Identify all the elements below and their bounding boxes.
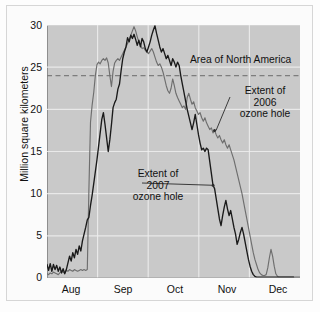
y-tick-30: 30 <box>30 20 42 30</box>
annotation-extent-2006: Extent of 2006 ozone hole <box>231 85 299 120</box>
ozone-hole-chart-figure: 30 25 20 15 10 5 0 Million square kilome… <box>0 0 320 312</box>
annotation-area-of-north-america: Area of North America <box>190 54 291 66</box>
x-tick-dec: Dec <box>252 284 304 295</box>
y-tick-15: 15 <box>30 146 42 156</box>
callout-dot-2006 <box>213 129 216 132</box>
y-tick-25: 25 <box>30 62 42 72</box>
y-tick-5: 5 <box>36 230 42 240</box>
y-tick-20: 20 <box>30 104 42 114</box>
x-tick-oct: Oct <box>149 284 201 295</box>
x-tick-aug: Aug <box>45 284 97 295</box>
x-tick-sep: Sep <box>97 284 149 295</box>
y-tick-0: 0 <box>36 272 42 282</box>
callout-dot-2007 <box>211 184 214 187</box>
y-tick-10: 10 <box>30 188 42 198</box>
x-tick-nov: Nov <box>201 284 253 295</box>
callout-leader-2006 <box>216 97 230 130</box>
y-axis-title: Million square kilometers <box>18 14 30 234</box>
annotation-extent-2007: Extent of 2007 ozone hole <box>123 168 193 203</box>
